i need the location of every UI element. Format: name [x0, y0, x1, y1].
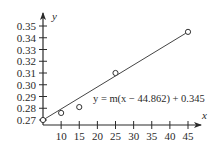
x-ticks: 1015202530354045: [56, 121, 194, 142]
y-tick-label: 0.27: [17, 114, 37, 126]
data-point: [113, 70, 118, 75]
y-tick-label: 0.32: [17, 55, 36, 67]
y-tick-label: 0.31: [17, 67, 36, 79]
equation-annotation: y = m(x − 44.862) + 0.345: [93, 93, 205, 105]
x-tick-label: 20: [92, 130, 104, 142]
x-tick-label: 35: [146, 130, 158, 142]
y-tick-label: 0.29: [17, 91, 37, 103]
y-axis-label: y: [51, 10, 57, 22]
x-tick-label: 10: [56, 130, 68, 142]
data-point: [77, 104, 82, 109]
x-tick-label: 30: [128, 130, 140, 142]
x-tick-label: 40: [164, 130, 176, 142]
x-tick-label: 15: [74, 130, 86, 142]
data-point: [185, 29, 190, 34]
y-tick-label: 0.33: [17, 44, 37, 56]
y-tick-label: 0.28: [17, 102, 37, 114]
chart: 0.270.280.290.300.310.320.330.340.35 101…: [0, 0, 214, 144]
x-tick-label: 25: [110, 130, 122, 142]
data-points: [40, 29, 190, 122]
y-tick-label: 0.35: [17, 20, 37, 32]
x-axis-label: x: [201, 109, 207, 121]
data-point: [59, 110, 64, 115]
y-tick-label: 0.30: [17, 79, 37, 91]
x-tick-label: 45: [183, 130, 195, 142]
data-point: [40, 117, 45, 122]
y-tick-label: 0.34: [17, 32, 37, 44]
